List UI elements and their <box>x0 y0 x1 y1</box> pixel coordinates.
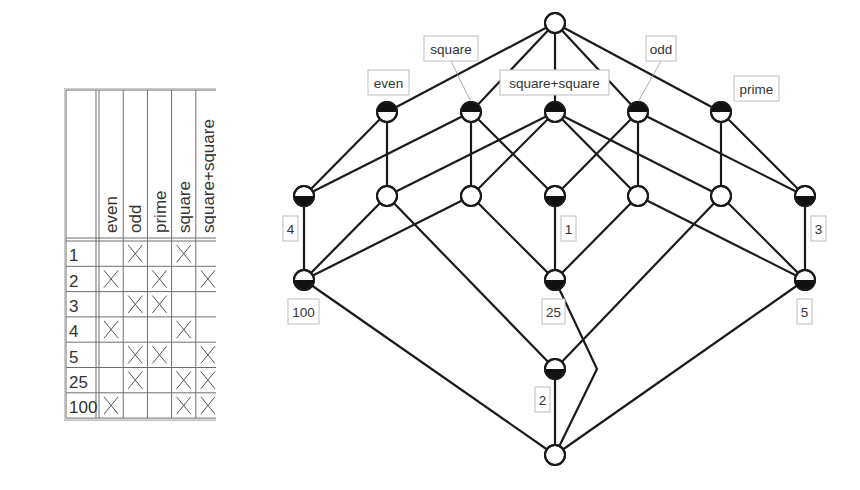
concept-node-bottom[interactable] <box>545 445 565 465</box>
concept-node-n5[interactable] <box>795 270 815 290</box>
concept-node-square[interactable] <box>461 102 481 122</box>
lattice-edge <box>555 23 638 112</box>
concept-node-c[interactable] <box>461 186 481 206</box>
concept-node-even[interactable] <box>377 102 397 122</box>
svg-text:even: even <box>374 76 403 91</box>
lattice-edge <box>471 196 555 280</box>
svg-text:1: 1 <box>565 222 573 237</box>
attribute-label: prime <box>734 76 779 101</box>
svg-text:prime: prime <box>740 82 774 97</box>
lattice-edge <box>555 280 805 455</box>
lattice-edge <box>387 196 555 369</box>
svg-text:5: 5 <box>801 305 809 320</box>
attribute-label: square+square <box>500 70 609 95</box>
concept-node-b[interactable] <box>377 186 397 206</box>
svg-text:square: square <box>430 42 471 57</box>
svg-text:4: 4 <box>287 222 295 237</box>
concept-node-prime[interactable] <box>711 102 731 122</box>
svg-text:3: 3 <box>815 222 823 237</box>
attribute-label: even <box>368 70 409 95</box>
lattice-edge <box>721 112 805 196</box>
svg-text:100: 100 <box>292 305 315 320</box>
object-label: 1 <box>561 216 576 241</box>
lattice-edge <box>555 196 721 369</box>
svg-text:25: 25 <box>546 305 561 320</box>
lattice-edge <box>304 196 471 280</box>
svg-text:odd: odd <box>650 42 673 57</box>
object-label: 4 <box>283 216 298 241</box>
concept-node-n100[interactable] <box>294 270 314 290</box>
object-label: 100 <box>288 299 319 324</box>
object-label: 3 <box>811 216 826 241</box>
concept-node-n3[interactable] <box>795 186 815 206</box>
lattice-edge <box>638 196 805 280</box>
svg-text:square+square: square+square <box>509 76 599 91</box>
svg-text:2: 2 <box>539 393 547 408</box>
concept-node-odd[interactable] <box>628 102 648 122</box>
lattice-edge <box>304 112 387 196</box>
concept-node-n4[interactable] <box>294 186 314 206</box>
concept-node-e[interactable] <box>628 186 648 206</box>
object-label: 2 <box>535 387 550 412</box>
lattice-edge <box>471 23 555 112</box>
lattice-edge <box>555 23 721 112</box>
object-label: 5 <box>797 299 812 324</box>
concept-node-n2[interactable] <box>545 359 565 379</box>
concept-node-top[interactable] <box>545 13 565 33</box>
concept-node-ss[interactable] <box>545 102 565 122</box>
concept-node-n25[interactable] <box>545 270 565 290</box>
attribute-label: square <box>424 36 478 61</box>
attribute-label: odd <box>646 36 676 61</box>
lattice-edge <box>304 196 387 280</box>
object-label: 25 <box>542 299 565 324</box>
concept-node-f[interactable] <box>711 186 731 206</box>
lattice-edge <box>721 196 805 280</box>
concept-node-n1[interactable] <box>545 186 565 206</box>
lattice-edge <box>304 280 555 455</box>
concept-lattice-diagram: evensquaresquare+squareoddprime413100255… <box>0 0 860 490</box>
